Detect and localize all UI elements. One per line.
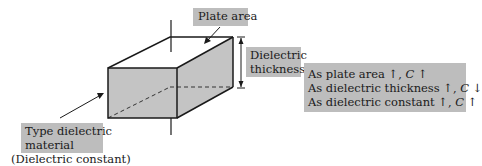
- dielectric-thickness-label: Dielectric thickness: [246, 47, 301, 77]
- relationship-plate-area: As plate area ↑, C ↑: [308, 67, 462, 81]
- relationship-text: As dielectric constant: [308, 95, 435, 109]
- capacitance-symbol: C: [455, 95, 464, 109]
- relationships-box: As plate area ↑, C ↑ As dielectric thick…: [304, 63, 466, 112]
- type-dielectric-line1: Type dielectric: [25, 125, 99, 139]
- up-arrow-icon: ↑: [418, 67, 428, 81]
- dielectric-thickness-line1: Dielectric: [250, 49, 297, 63]
- plate-area-label: Plate area: [193, 8, 248, 26]
- side-face: [177, 37, 233, 118]
- up-arrow-icon: ↑: [443, 81, 453, 95]
- down-arrow-icon: ↓: [473, 81, 482, 95]
- type-dielectric-line2: material: [25, 139, 99, 153]
- up-arrow-icon: ↑: [389, 67, 399, 81]
- capacitance-symbol: C: [460, 81, 469, 95]
- type-dielectric-label: Type dielectric material: [21, 123, 103, 153]
- relationship-dielectric-constant: As dielectric constant ↑, C ↑: [308, 95, 462, 109]
- relationship-dielectric-thickness: As dielectric thickness ↑, C ↓: [308, 81, 462, 95]
- up-arrow-icon: ↑: [438, 95, 448, 109]
- dielectric-thickness-line2: thickness: [250, 63, 297, 77]
- front-face: [108, 68, 177, 118]
- up-arrow-icon: ↑: [468, 95, 478, 109]
- relationship-text: As dielectric thickness: [308, 81, 440, 95]
- relationship-text: As plate area: [308, 67, 385, 81]
- dielectric-constant-note: (Dielectric constant): [11, 153, 131, 166]
- capacitance-symbol: C: [405, 67, 414, 81]
